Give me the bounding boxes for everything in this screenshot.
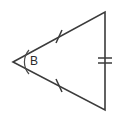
vertex-label-b: B	[30, 54, 38, 68]
triangle-diagram-svg: B	[0, 0, 119, 114]
geometry-figure: B	[0, 0, 119, 114]
